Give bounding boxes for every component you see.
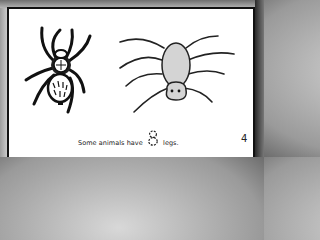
caption-text-before: Some animals have	[78, 139, 143, 147]
caption-text-after: legs.	[163, 139, 179, 147]
caption: Some animals have legs.	[78, 137, 179, 147]
background-shade-left	[0, 0, 7, 157]
background-shade-right	[255, 0, 264, 157]
cartoon-spider-illustration	[112, 28, 242, 114]
spider-eye-left	[171, 90, 174, 93]
spider-eye-right	[178, 90, 181, 93]
traced-number-eight	[147, 137, 159, 147]
dashed-eight-icon	[147, 130, 159, 146]
realistic-spider-illustration	[20, 20, 100, 115]
page-number: 4	[241, 133, 247, 144]
